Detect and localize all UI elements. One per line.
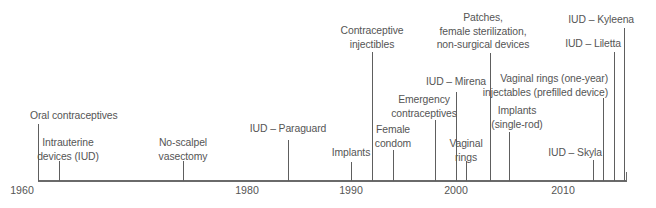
event-label-vaginal-rings: Vaginal rings bbox=[449, 137, 482, 164]
event-label-kyleena: IUD – Kyleena bbox=[568, 13, 634, 27]
event-label-implants-single-rod: Implants (single-rod) bbox=[491, 104, 542, 131]
event-stem-implants-single-rod bbox=[509, 132, 510, 181]
axis-end-tick bbox=[626, 172, 627, 181]
event-label-implants: Implants bbox=[332, 146, 370, 160]
event-stem-skyla bbox=[593, 160, 594, 181]
event-stem-female-condom bbox=[393, 150, 394, 181]
event-label-paraguard: IUD – Paraguard bbox=[250, 122, 326, 136]
event-stem-paraguard bbox=[288, 140, 289, 181]
event-stem-injectibles bbox=[372, 52, 373, 181]
contraceptive-timeline: 1960 1980 1990 2000 2010 Oral contracept… bbox=[0, 0, 656, 208]
event-label-vasectomy: No-scalpel vasectomy bbox=[159, 136, 208, 163]
year-label-1980: 1980 bbox=[235, 184, 259, 196]
year-label-2010: 2010 bbox=[551, 184, 575, 196]
event-label-female-condom: Female condom bbox=[375, 123, 411, 150]
event-label-skyla: IUD – Skyla bbox=[548, 146, 602, 160]
event-stem-vaginal-rings bbox=[466, 161, 467, 181]
event-label-patches: Patches, female sterilization, non-surgi… bbox=[437, 11, 530, 52]
event-stem-implants bbox=[351, 162, 352, 181]
event-label-rings-one-year: Vaginal rings (one-year) injectables (pr… bbox=[483, 72, 608, 99]
year-label-2000: 2000 bbox=[444, 184, 468, 196]
event-label-oral-contraceptives: Oral contraceptives bbox=[30, 109, 118, 123]
year-label-1990: 1990 bbox=[339, 184, 363, 196]
event-label-liletta: IUD – Liletta bbox=[565, 37, 621, 51]
event-stem-vasectomy bbox=[183, 161, 184, 181]
event-stem-iud bbox=[59, 161, 60, 181]
event-label-injectibles: Contraceptive injectibles bbox=[341, 24, 404, 51]
year-label-1960: 1960 bbox=[10, 184, 34, 196]
event-label-mirena: IUD – Mirena bbox=[426, 75, 486, 89]
event-stem-emergency bbox=[435, 120, 436, 181]
event-label-emergency: Emergency contraceptives bbox=[391, 93, 457, 120]
event-label-iud: Intrauterine devices (IUD) bbox=[37, 136, 99, 163]
event-stem-kyleena bbox=[624, 28, 625, 181]
event-stem-rings-one-year bbox=[603, 98, 604, 181]
timeline-axis bbox=[38, 180, 627, 182]
event-stem-liletta bbox=[614, 52, 615, 181]
